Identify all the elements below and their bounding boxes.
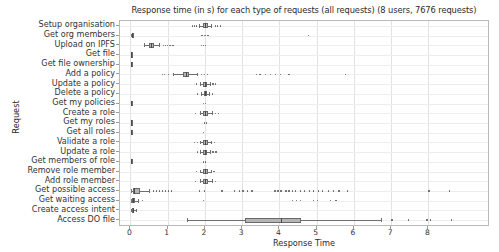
boxplot-cap-high	[209, 92, 210, 96]
boxplot-whisker-high	[140, 191, 149, 192]
y-tick-label: Update a policy	[0, 79, 115, 88]
y-tick-mark	[116, 44, 119, 45]
boxplot-cap-low	[199, 24, 200, 28]
y-gridline	[120, 210, 488, 211]
y-tick-mark	[116, 35, 119, 36]
y-tick-label: Validate a role	[0, 137, 115, 146]
boxplot-outlier	[215, 83, 216, 84]
boxplot-outlier	[215, 181, 216, 182]
y-gridline	[120, 172, 488, 173]
x-tick-mark	[390, 226, 391, 229]
y-tick-label: Get all roles	[0, 127, 115, 136]
boxplot-outlier	[212, 83, 213, 84]
y-gridline	[120, 133, 488, 134]
boxplot-cap-low	[200, 170, 201, 174]
y-tick-label: Upload on IPFS	[0, 40, 115, 49]
boxplot-median	[131, 159, 132, 164]
boxplot-cap-high	[210, 82, 211, 86]
boxplot-cap-low	[200, 111, 201, 115]
y-tick-mark	[116, 132, 119, 133]
boxplot-outlier	[204, 74, 205, 75]
boxplot-outlier	[162, 190, 163, 191]
x-axis-title: Response Time	[119, 238, 489, 248]
y-tick-mark	[116, 209, 119, 210]
y-tick-mark	[116, 54, 119, 55]
boxplot-outlier	[169, 45, 170, 46]
boxplot-cap-high	[138, 199, 139, 203]
plot-area	[119, 20, 489, 226]
boxplot-outlier	[165, 45, 166, 46]
boxplot-outlier	[197, 93, 198, 94]
boxplot-cap-high	[212, 111, 213, 115]
boxplot-outlier	[215, 113, 216, 114]
y-tick-mark	[116, 25, 119, 26]
boxplot-outlier	[192, 25, 193, 26]
boxplot-whisker-high	[301, 220, 381, 221]
boxplot-outlier	[163, 45, 164, 46]
boxplot-median	[186, 72, 187, 77]
y-tick-mark	[116, 103, 119, 104]
boxplot-median	[281, 218, 282, 223]
y-tick-mark	[116, 64, 119, 65]
y-tick-mark	[116, 161, 119, 162]
y-tick-mark	[116, 151, 119, 152]
boxplot-outlier	[277, 190, 278, 191]
boxplot-cap-low	[201, 92, 202, 96]
boxplot-cap-high	[159, 43, 160, 47]
boxplot-median	[133, 198, 134, 203]
boxplot-outlier	[215, 25, 216, 26]
boxplot-cap-low	[200, 82, 201, 86]
x-tick-label: 0	[119, 228, 139, 237]
y-gridline	[120, 162, 488, 163]
boxplot-outlier	[408, 219, 409, 220]
x-tick-mark	[278, 226, 279, 229]
y-gridline	[120, 142, 488, 143]
x-tick-label: 5	[306, 228, 326, 237]
y-tick-label: Update a role	[0, 147, 115, 156]
y-tick-mark	[116, 180, 119, 181]
x-tick-label: 8	[417, 228, 437, 237]
y-tick-mark	[116, 73, 119, 74]
boxplot-outlier	[300, 190, 301, 191]
y-gridline	[120, 55, 488, 56]
y-tick-label: Setup organisation	[0, 20, 115, 29]
boxplot-outlier	[242, 190, 243, 191]
boxplot-figure: Response time (in s) for each type of re…	[0, 0, 499, 252]
y-gridline	[120, 152, 488, 153]
x-tick-label: 7	[380, 228, 400, 237]
x-tick-label: 3	[231, 228, 251, 237]
boxplot-whisker-high	[189, 74, 197, 75]
boxplot-median	[131, 101, 132, 106]
boxplot-median	[151, 43, 152, 48]
y-tick-label: Get members of role	[0, 156, 115, 165]
y-tick-label: Get org members	[0, 30, 115, 39]
y-tick-label: Remove role member	[0, 166, 115, 175]
boxplot-outlier	[204, 190, 205, 191]
boxplot-median	[205, 169, 206, 174]
boxplot-outlier	[201, 74, 202, 75]
x-tick-mark	[353, 226, 354, 229]
boxplot-outlier	[280, 190, 281, 191]
y-tick-label: Get file ownership	[0, 59, 115, 68]
boxplot-outlier	[204, 122, 205, 123]
boxplot-cap-low	[200, 141, 201, 145]
boxplot-outlier	[203, 45, 204, 46]
y-gridline	[120, 94, 488, 95]
boxplot-median	[205, 91, 206, 96]
x-tick-mark	[316, 226, 317, 229]
y-tick-label: Add role member	[0, 176, 115, 185]
y-tick-label: Get my policies	[0, 98, 115, 107]
boxplot-median	[131, 52, 132, 57]
y-tick-mark	[116, 171, 119, 172]
boxplot-median	[205, 82, 206, 87]
y-tick-mark	[116, 83, 119, 84]
boxplot-cap-low	[144, 43, 145, 47]
y-tick-label: Access DO file	[0, 215, 115, 224]
y-tick-mark	[116, 112, 119, 113]
boxplot-median	[134, 188, 135, 193]
boxplot-cap-high	[211, 24, 212, 28]
boxplot-cap-high	[381, 218, 382, 222]
boxplot-outlier	[338, 190, 339, 191]
y-tick-label: Get my roles	[0, 117, 115, 126]
boxplot-outlier	[274, 190, 275, 191]
